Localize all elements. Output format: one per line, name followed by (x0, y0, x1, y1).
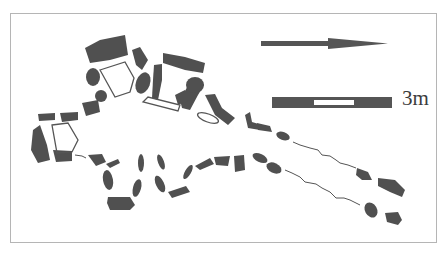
scale-bar (272, 97, 392, 108)
stone (163, 53, 205, 73)
stone (138, 154, 144, 172)
scale-label: 3m (402, 88, 429, 109)
stone (88, 154, 106, 166)
stone (195, 158, 214, 170)
stone (85, 35, 128, 63)
stone (107, 197, 135, 210)
stone (60, 112, 78, 122)
stone (251, 151, 269, 165)
stone (205, 94, 235, 125)
stone (275, 130, 291, 142)
stone (168, 186, 190, 198)
stone (265, 160, 284, 176)
stone (86, 68, 100, 86)
stone (385, 212, 402, 225)
wall-line-upper (293, 142, 356, 168)
stone (82, 100, 100, 116)
stone (362, 200, 380, 220)
stone (152, 64, 162, 100)
wall-line-left (75, 155, 86, 158)
stone (106, 159, 120, 168)
stone (132, 47, 148, 70)
outlined-stone (52, 123, 78, 153)
stone (155, 153, 166, 170)
outlined-stones (52, 62, 220, 153)
stone (356, 168, 372, 180)
stone (234, 155, 245, 172)
stone (101, 169, 114, 190)
stone (181, 164, 194, 181)
wall-line-lower (285, 170, 360, 205)
stone (153, 174, 168, 194)
stone (95, 90, 107, 102)
stones (31, 35, 405, 225)
stone (257, 123, 272, 132)
stone (214, 156, 230, 166)
stone (38, 113, 55, 121)
stone (186, 77, 204, 93)
stone (378, 178, 405, 197)
outlined-stone (143, 97, 180, 111)
north-arrow (261, 38, 388, 49)
wall-lines (75, 142, 360, 205)
site-plan (0, 0, 447, 256)
stone (133, 70, 154, 95)
stone (31, 125, 50, 163)
stone (131, 178, 143, 197)
